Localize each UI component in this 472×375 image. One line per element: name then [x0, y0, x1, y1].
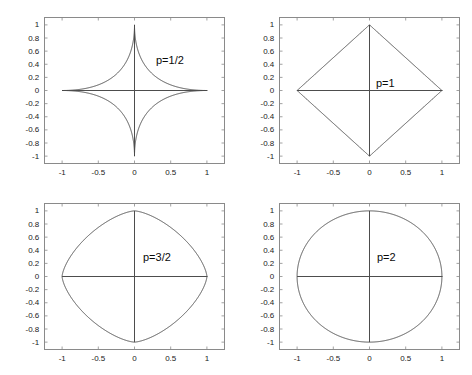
ytick-label: 0.6	[245, 233, 274, 242]
ytick-label: -0.6	[245, 311, 274, 320]
ytick-label: -0.8	[245, 325, 274, 334]
plot-vector-layer	[0, 0, 472, 375]
ytick-label: 0.2	[245, 259, 274, 268]
figure-canvas: 10.80.60.40.20-0.2-0.4-0.6-0.8-1-1-0.500…	[0, 0, 472, 375]
ytick-label: -1	[245, 338, 274, 347]
ytick-label: -0.4	[245, 298, 274, 307]
ytick-label: 0.4	[245, 246, 274, 255]
origin-crosshair	[297, 211, 442, 342]
ytick-label: -0.2	[245, 285, 274, 294]
xtick-label: 1	[427, 354, 457, 363]
xtick-label: 0.5	[391, 354, 421, 363]
ytick-label: 1	[245, 206, 274, 215]
ytick-label: 0.8	[245, 220, 274, 229]
ytick-label: 0	[245, 272, 274, 281]
xtick-label: 0	[355, 354, 385, 363]
panel-p-two: 10.80.60.40.20-0.2-0.4-0.6-0.8-1-1-0.500…	[0, 0, 472, 375]
panel-annotation-panel-p-two: p=2	[377, 251, 396, 263]
xtick-label: -0.5	[318, 354, 348, 363]
xtick-label: -1	[282, 354, 312, 363]
